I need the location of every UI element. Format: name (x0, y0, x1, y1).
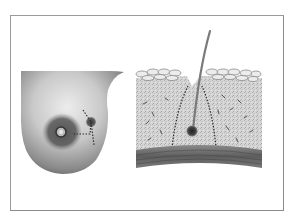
lesion (187, 126, 198, 137)
breast-panel (21, 71, 124, 174)
muscle-layer (136, 145, 262, 168)
medical-illustration (0, 0, 294, 220)
skin-lobules-left (136, 69, 181, 81)
cross-section-panel (136, 31, 262, 168)
